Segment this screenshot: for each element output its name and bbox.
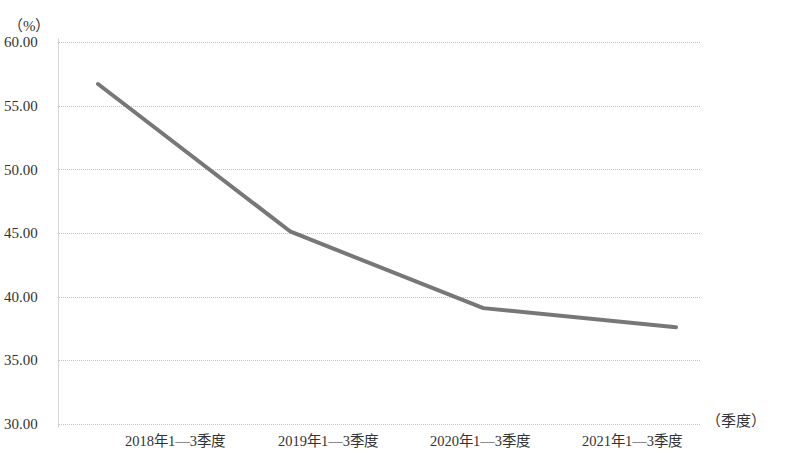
y-tick-label-40: 40.00 — [4, 290, 54, 305]
y-tick-label-45: 45.00 — [4, 226, 54, 241]
line-chart: （%） 60.00 55.00 50.00 45.00 40.00 35.00 … — [0, 0, 787, 457]
y-tick-label-35: 35.00 — [4, 353, 54, 368]
x-tick-label-2020: 2020年1—3季度 — [400, 432, 560, 450]
y-tick-label-50: 50.00 — [4, 163, 54, 178]
x-tick-label-2021: 2021年1—3季度 — [552, 432, 712, 450]
y-tick-label-55: 55.00 — [4, 99, 54, 114]
series-line — [58, 42, 700, 424]
y-tick-label-30: 30.00 — [4, 417, 54, 432]
gridline-30 — [58, 424, 700, 425]
y-tick-label-60: 60.00 — [4, 35, 54, 50]
plot-area — [58, 42, 700, 424]
x-axis-title: （季度） — [706, 412, 766, 430]
x-tick-label-2018: 2018年1—3季度 — [95, 432, 255, 450]
y-axis-unit-label: （%） — [8, 14, 51, 35]
x-tick-label-2019: 2019年1—3季度 — [248, 432, 408, 450]
series-polyline — [98, 84, 676, 327]
